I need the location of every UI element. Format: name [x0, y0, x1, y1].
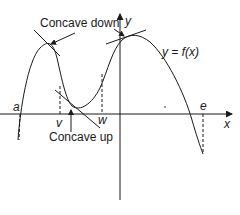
y-axis-label: y — [124, 14, 132, 28]
concavity-diagram: Concave down Concave up y x y = f(x) a v… — [0, 0, 240, 215]
concave-up-label: Concave up — [49, 130, 113, 144]
point-label-w: w — [98, 113, 108, 127]
point-label-v: v — [56, 116, 63, 130]
point-label-e: e — [200, 99, 207, 113]
function-label: y = f(x) — [161, 45, 199, 59]
tangent-line-right-peak — [106, 30, 146, 44]
tangent-line-left-peak — [34, 30, 60, 56]
point-label-a: a — [13, 100, 20, 114]
stray-dot — [164, 106, 166, 108]
x-axis-label: x — [223, 117, 231, 131]
diagram-canvas: Concave down Concave up y x y = f(x) a v… — [0, 0, 240, 215]
concave-down-arrow-right — [114, 29, 124, 36]
concave-down-arrow-left — [51, 33, 75, 44]
concave-down-label: Concave down — [40, 16, 119, 30]
